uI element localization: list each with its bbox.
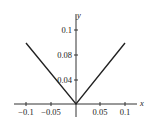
x-axis-label: x: [139, 98, 144, 108]
y-tick-label: 0.1: [61, 25, 72, 35]
y-axis-label: y: [76, 10, 81, 20]
y-tick-label: 0.04: [57, 75, 73, 85]
x-tick-label: 0.1: [120, 107, 131, 117]
y-tick-label: 0.08: [57, 50, 72, 60]
chart: −0.1 −0.05 0.05 0.1 0.1 0.08 0.04 x y: [0, 0, 154, 126]
x-tick-label: 0.05: [93, 107, 108, 117]
x-tick-label: −0.1: [18, 107, 33, 117]
x-tick-label: −0.05: [41, 107, 61, 117]
